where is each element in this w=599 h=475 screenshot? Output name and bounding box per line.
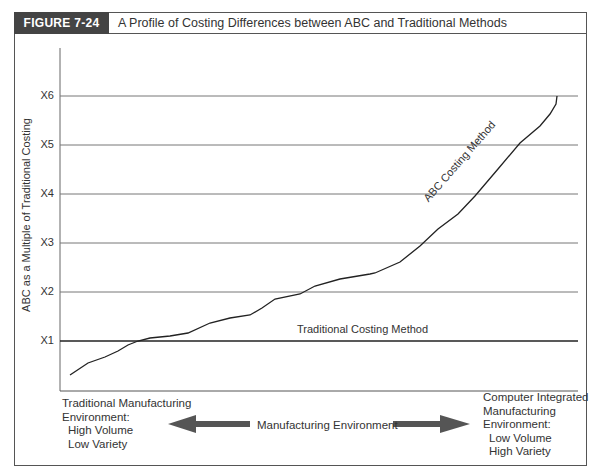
right-arrow-icon — [393, 415, 470, 433]
traditional-line-label: Traditional Costing Method — [297, 323, 428, 337]
gridlines — [60, 96, 578, 292]
right-environment-note: Computer Integrated Manufacturing Enviro… — [483, 391, 588, 459]
x-axis-label: Manufacturing Environment — [257, 419, 398, 431]
left-environment-note: Traditional Manufacturing Environment: H… — [62, 397, 191, 451]
